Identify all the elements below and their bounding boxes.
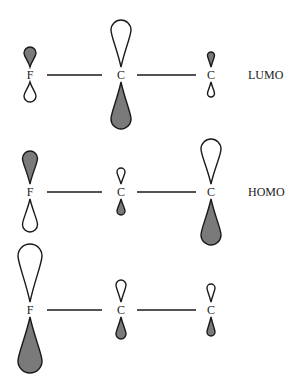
p-orbital-lobe-top (111, 20, 131, 67)
orbital-label: HOMO (248, 185, 285, 199)
p-orbital-lobe-bottom (24, 82, 36, 102)
atom-label: C (207, 303, 215, 317)
atom-orbital-c: C (116, 280, 126, 339)
atom-label: F (27, 303, 34, 317)
p-orbital-lobe-top (24, 47, 36, 67)
orbital-row-lowest: FCC (18, 244, 215, 373)
p-orbital-lobe-top (116, 280, 126, 302)
atom-label: F (27, 68, 34, 82)
orbital-row-homo: FCCHOMO (23, 139, 286, 245)
atom-label: C (117, 68, 125, 82)
atom-label: C (207, 185, 215, 199)
atom-orbital-c: C (207, 52, 215, 97)
atom-orbital-c: C (207, 284, 215, 336)
atom-orbital-f: F (18, 244, 42, 373)
atom-orbital-c: C (117, 168, 125, 215)
atom-orbital-f: F (24, 47, 36, 102)
atom-orbital-f: F (23, 151, 38, 232)
molecular-orbital-diagram: FCCLUMOFCCHOMOFCC (0, 0, 303, 389)
atom-label: F (27, 185, 34, 199)
p-orbital-lobe-bottom (208, 82, 215, 97)
p-orbital-lobe-top (117, 168, 125, 184)
p-orbital-lobe-bottom (201, 199, 221, 245)
atom-orbital-c: C (111, 20, 131, 129)
p-orbital-lobe-bottom (111, 82, 131, 129)
p-orbital-lobe-top (23, 151, 38, 184)
p-orbital-lobe-top (18, 244, 42, 302)
p-orbital-lobe-top (208, 52, 215, 67)
p-orbital-lobe-bottom (23, 199, 38, 232)
p-orbital-lobe-top (201, 139, 221, 184)
atom-label: C (117, 303, 125, 317)
orbital-row-lumo: FCCLUMO (24, 20, 284, 129)
atom-orbital-c: C (201, 139, 221, 245)
orbital-label: LUMO (248, 68, 284, 82)
p-orbital-lobe-bottom (117, 199, 125, 215)
p-orbital-lobe-bottom (207, 317, 215, 336)
atom-label: C (207, 68, 215, 82)
atom-label: C (117, 185, 125, 199)
p-orbital-lobe-top (207, 284, 215, 302)
p-orbital-lobe-bottom (116, 317, 126, 339)
p-orbital-lobe-bottom (18, 317, 42, 373)
